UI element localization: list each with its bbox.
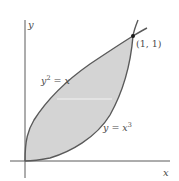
upper-curve-label: y2 = x bbox=[40, 74, 71, 86]
y-axis-label: y bbox=[27, 19, 34, 30]
x-axis-label: x bbox=[163, 167, 169, 178]
intersection-point-marker bbox=[131, 34, 135, 38]
lower-curve-label: y = x3 bbox=[102, 121, 132, 133]
plot-canvas: y x (1, 1) y2 = x y = x3 bbox=[0, 0, 179, 181]
area-between-curves-figure: y x (1, 1) y2 = x y = x3 bbox=[0, 0, 179, 181]
intersection-point-label: (1, 1) bbox=[136, 38, 162, 49]
